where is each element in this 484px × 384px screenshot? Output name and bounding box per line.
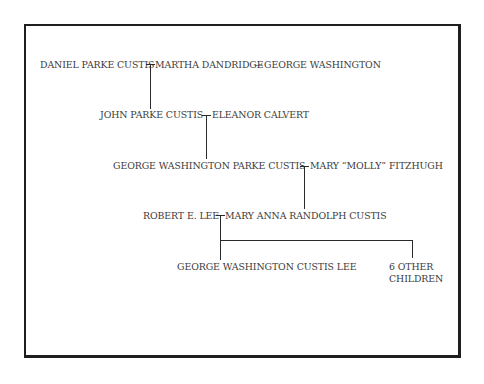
marriage-dash: — [254, 59, 263, 70]
descent-line-1 [150, 64, 151, 109]
person-daniel-parke-custis: DANIEL PARKE CUSTIS [40, 59, 154, 70]
other-children-line1: 6 OTHER [389, 261, 433, 272]
person-mary-molly-fitzhugh: MARY “MOLLY” FITZHUGH [310, 160, 443, 171]
diagram-frame [24, 24, 461, 358]
descent-line-2 [206, 115, 207, 159]
person-george-washington-parke-custis: GEORGE WASHINGTON PARKE CUSTIS [113, 160, 305, 171]
descent-line-4 [220, 215, 221, 260]
sibling-bar [220, 240, 413, 241]
descent-line-3 [304, 166, 305, 209]
person-robert-e-lee: ROBERT E. LEE [143, 210, 219, 221]
descent-line-other-children [412, 240, 413, 258]
other-children-line2: CHILDREN [389, 273, 443, 284]
person-george-washington: GEORGE WASHINGTON [264, 59, 381, 70]
person-john-parke-custis: JOHN PARKE CUSTIS [100, 109, 203, 120]
person-mary-anna-randolph-custis: MARY ANNA RANDOLPH CUSTIS [225, 210, 387, 221]
person-george-washington-custis-lee: GEORGE WASHINGTON CUSTIS LEE [177, 261, 356, 272]
person-martha-dandridge: MARTHA DANDRIDGE [155, 59, 263, 70]
person-eleanor-calvert: ELEANOR CALVERT [212, 109, 309, 120]
